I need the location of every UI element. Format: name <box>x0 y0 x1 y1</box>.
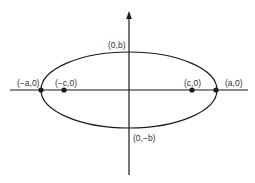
right-focus-dot <box>189 87 194 92</box>
top-co-vertex-label: (0,b) <box>108 40 126 50</box>
right-focus-label: (c,0) <box>184 78 201 88</box>
right-vertex-label: (a,0) <box>225 78 243 88</box>
bottom-co-vertex-label: (0,−b) <box>133 133 156 143</box>
left-focus-label: (−c,0) <box>55 78 77 88</box>
left-vertex-dot <box>38 87 43 92</box>
left-vertex-label: (−a,0) <box>17 78 40 88</box>
right-vertex-dot <box>213 87 218 92</box>
ellipse-diagram: (−a,0) (−c,0) (c,0) (a,0) (0,b) (0,−b) <box>0 0 255 183</box>
y-axis-arrow-icon <box>126 11 132 19</box>
left-focus-dot <box>61 87 66 92</box>
